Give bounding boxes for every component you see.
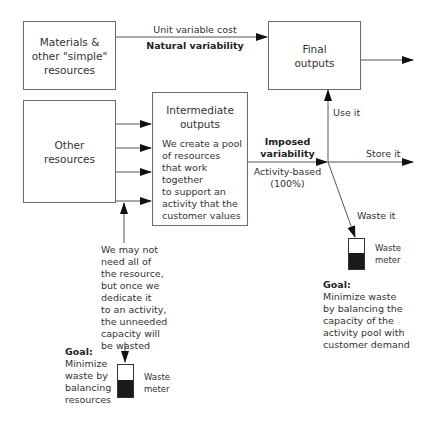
materials-label-1: Materials & [40,35,100,49]
left-goal-line: waste by [65,370,111,382]
imposed-label-2: variability [250,148,325,160]
left-note: We may not need all of the resource, but… [101,244,167,352]
waste-it-label: Waste it [357,210,396,222]
intermediate-desc-line: of resources [162,150,247,162]
left-note-line: dedicate it [101,292,167,304]
materials-label-2: other "simple" [32,49,108,63]
left-note-line: the resource, [101,268,167,280]
intermediate-description: We create a pool of resources that work … [153,138,247,222]
other-resources-label-2: resources [44,152,95,166]
other-resources-label-1: Other [55,138,85,152]
left-note-line: but once we [101,280,167,292]
right-goal-line: activity pool with [323,327,410,339]
final-outputs-box: Final outputs [268,21,361,90]
waste-meter-fill [349,253,364,270]
left-note-line: to an activity, [101,304,167,316]
final-outputs-label-2: outputs [294,56,334,70]
intermediate-title-2: outputs [180,117,220,131]
intermediate-desc-line: that work together [162,162,247,186]
waste-meter-right-label-1: Waste [375,243,401,254]
right-goal-line: Minimize waste [323,291,410,303]
use-it-label: Use it [333,107,360,119]
left-note-line: capacity will [101,328,167,340]
materials-label-3: resources [44,63,95,77]
waste-meter-left [117,364,134,398]
left-goal-heading: Goal: [65,346,111,358]
waste-meter-left-label-2: meter [144,384,170,395]
right-goal-line: capacity of the [323,315,410,327]
intermediate-desc-line: activity that the [162,198,247,210]
imposed-label-1: Imposed [250,136,325,148]
waste-meter-right-label-2: meter [375,255,401,266]
intermediate-title-1: Intermediate [166,103,234,117]
waste-meter-right [348,238,365,270]
left-goal-line: resources [65,394,111,406]
final-outputs-label-1: Final [302,42,326,56]
intermediate-outputs-box: Intermediate outputs We create a pool of… [152,92,248,226]
activity-percent-label: (100%) [250,178,325,190]
right-goal: Goal: Minimize waste by balancing the ca… [323,279,410,351]
other-resources-box: Other resources [23,100,116,203]
right-goal-line: by balancing the [323,303,410,315]
waste-meter-fill [118,380,133,397]
right-goal-line: customer demand [323,339,410,351]
waste-meter-left-label-1: Waste [144,372,170,383]
unit-variable-cost-label: Unit variable cost [140,24,250,36]
left-note-line: the unneeded [101,316,167,328]
intermediate-desc-line: customer values [162,210,247,222]
left-note-line: need all of [101,256,167,268]
materials-box: Materials & other "simple" resources [23,21,116,90]
store-it-label: Store it [366,148,401,160]
left-note-line: We may not [101,244,167,256]
left-goal-line: balancing [65,382,111,394]
left-goal: Goal: Minimize waste by balancing resour… [65,346,111,406]
intermediate-desc-line: We create a pool [162,138,247,150]
natural-variability-label: Natural variability [140,40,250,52]
left-goal-line: Minimize [65,358,111,370]
right-goal-heading: Goal: [323,279,410,291]
activity-based-label: Activity-based [250,166,325,178]
intermediate-desc-line: to support an [162,186,247,198]
